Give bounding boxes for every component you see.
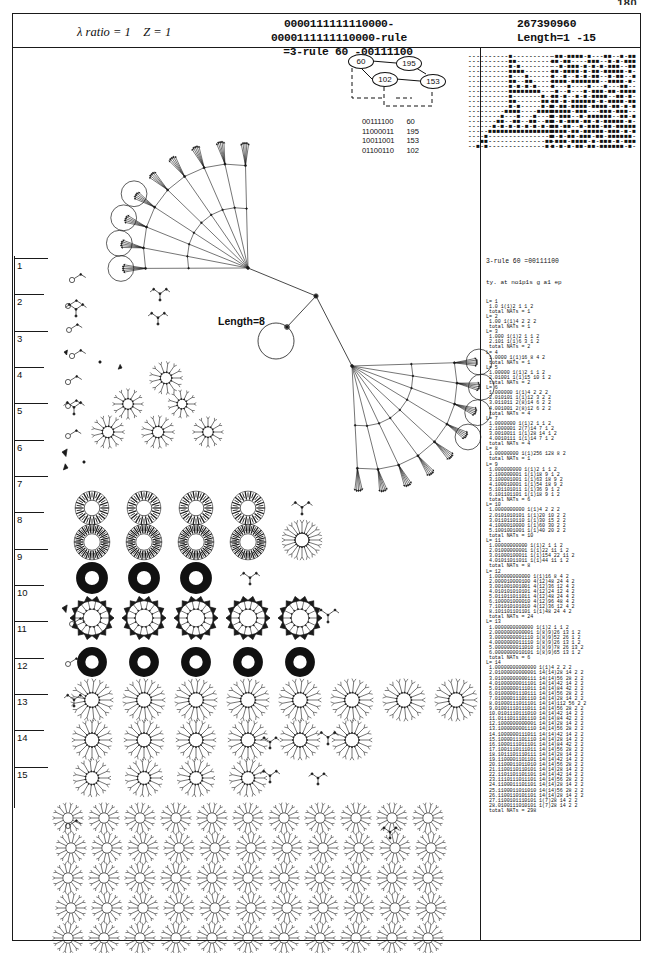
lut-value: 195 [394,127,418,137]
ladder-tick [14,658,44,659]
z-parameter-label: Z = 1 [143,25,171,39]
ladder-tick-label-14: 14 [17,732,28,743]
rule-code-line-1: 0000111111110000-0000111111110000-rule [234,17,444,45]
ladder-tick [14,476,48,477]
ladder-tick-label-4: 4 [17,369,22,380]
ladder-tick-label-10: 10 [17,587,28,598]
ladder-tick [14,403,48,404]
lut-bits: 00111100 [362,117,394,127]
header-rule-number-block: 267390960 Length=1 -15 [517,17,596,45]
table-row: 01100110 102 [362,146,419,156]
row-index-ladder: 123456789101112131415 [14,258,62,803]
ladder-tick-label-2: 2 [17,296,22,307]
lut-value: 60 [394,117,418,127]
rule-node-195: 195 [396,56,422,71]
column-divider [480,48,481,941]
ladder-tick-label-13: 13 [17,696,28,707]
table-row: 10011001 153 [362,136,419,146]
lut-bits: 10011001 [362,136,394,146]
nat-listing-subtitle: ty. at no1p1s g a1 ep [486,277,654,289]
lut-value: 102 [394,146,418,156]
ladder-tick [14,767,48,768]
ladder-tick-label-7: 7 [17,478,22,489]
lut-value: 153 [394,136,418,146]
header-parameters: λ ratio = 1 Z = 1 [77,25,171,40]
ladder-tick [14,694,48,695]
nat-listing-column: 3-rule 60 =00111100 ty. at no1p1s g a1 e… [486,246,654,824]
figure-header: λ ratio = 1 Z = 1 0000111111110000-00001… [12,13,641,48]
ladder-tick-label-6: 6 [17,442,22,453]
ladder-tick [14,258,48,259]
nat-listing-title: 3-rule 60 =00111100 [486,256,654,267]
lut-bits: 11000011 [362,127,394,137]
ladder-tick [14,367,44,368]
ladder-tick-label-9: 9 [17,551,22,562]
lut-bits: 01100110 [362,146,394,156]
table-row: 00111100 60 [362,117,419,127]
nat-sections: L= 1 1.0 1(1)2 1 1 2 total NATs = 1L= 2 … [486,300,654,814]
ladder-tick [14,585,44,586]
page-number: 180 [617,0,637,5]
ladder-tick-label-12: 12 [17,660,28,671]
ladder-tick [14,621,48,622]
center-graph-length-label: Length=8 [218,315,265,327]
rule-lookup-table: 00111100 60 11000011 195 10011001 153 01… [362,117,419,155]
ladder-tick [14,512,44,513]
ladder-tick-label-1: 1 [17,260,22,271]
ladder-tick-label-3: 3 [17,333,22,344]
ca-spacetime-random: -■■-■■■■-■---■■--■-■■ ■■-■■----■■■--■-■-… [551,54,636,149]
rule-node-102: 102 [372,72,398,87]
ladder-tick-label-15: 15 [17,769,28,780]
rule-equivalence-graph: 60 195 102 153 [344,54,464,112]
rule-node-153: 153 [420,74,446,89]
ca-spacetime-seed: ----------■---------- ----------■■------… [468,54,553,149]
ladder-tick-label-8: 8 [17,514,22,525]
ladder-tick [14,440,44,441]
header-rule-code: 0000111111110000-0000111111110000-rule =… [234,17,444,59]
lambda-ratio-label: λ ratio = 1 [77,25,131,39]
ladder-tick-label-5: 5 [17,405,22,416]
ladder-tick [14,730,44,731]
table-row: 11000011 195 [362,127,419,137]
nat-section-total: total NATs = 298 [486,809,654,814]
ladder-spine [14,256,15,808]
ladder-tick [14,294,44,295]
length-range-label: Length=1 -15 [517,31,596,45]
ladder-tick-label-11: 11 [17,623,27,634]
rule-node-60: 60 [348,54,374,69]
ladder-tick [14,331,48,332]
ladder-tick [14,549,48,550]
rule-number: 267390960 [517,17,596,31]
